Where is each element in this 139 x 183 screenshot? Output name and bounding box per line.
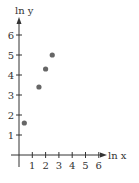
y-tick-label: 5	[8, 50, 14, 61]
x-axis-arrow-icon	[100, 153, 107, 158]
y-tick-label: 4	[8, 70, 14, 81]
x-tick-label: 1	[29, 160, 35, 171]
y-axis-arrow-icon	[17, 17, 22, 24]
x-tick-label: 2	[42, 160, 48, 171]
data-point	[36, 84, 41, 89]
data-point	[43, 66, 48, 71]
x-tick-label: 3	[56, 160, 62, 171]
y-axis-label: ln y	[15, 5, 34, 16]
y-tick-label: 2	[8, 110, 14, 121]
x-tick-label: 6	[96, 160, 102, 171]
axes: 123456123456	[8, 17, 107, 171]
data-points	[22, 52, 55, 125]
y-tick-label: 1	[8, 130, 14, 141]
x-tick-label: 5	[82, 160, 88, 171]
scatter-plot: 123456123456 ln y ln x	[0, 0, 139, 183]
data-point	[22, 120, 27, 125]
x-axis-label: ln x	[108, 150, 127, 161]
data-point	[50, 52, 55, 57]
x-tick-label: 4	[69, 160, 75, 171]
y-tick-label: 3	[8, 90, 14, 101]
y-tick-label: 6	[8, 30, 14, 41]
